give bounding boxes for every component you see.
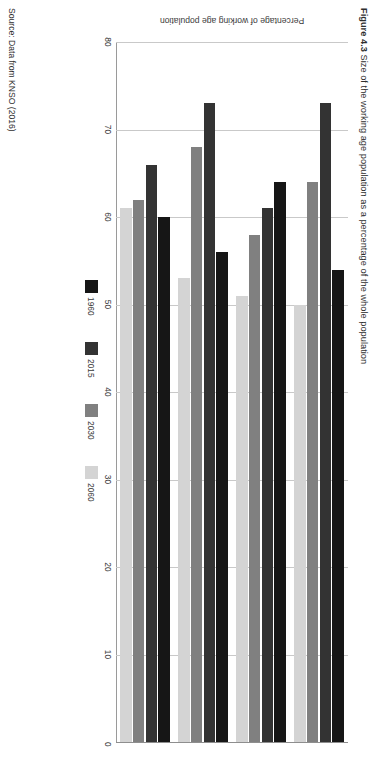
- legend-item[interactable]: 2060: [85, 466, 98, 502]
- legend-label: 2060: [87, 483, 97, 502]
- legend-label: 2030: [87, 421, 97, 440]
- legend-swatch-icon: [85, 342, 98, 355]
- category-axis-labels: KoreaJapanChinaUnited States: [116, 42, 348, 742]
- figure-caption-label: Figure 4.3: [359, 8, 369, 52]
- x-axis-title: Percentage of working age population: [116, 14, 348, 28]
- legend-swatch-icon: [85, 404, 98, 417]
- legend-swatch-icon: [85, 466, 98, 479]
- chart-legend: 1960201520302060: [78, 42, 98, 742]
- figure-caption-text: Size of the working age population as a …: [359, 55, 369, 365]
- figure-caption: Figure 4.3 Size of the working age popul…: [358, 8, 370, 708]
- legend-item[interactable]: 1960: [85, 280, 98, 316]
- x-axis-tick-labels: 80706050403020100: [101, 42, 115, 742]
- value-axis-line: [116, 742, 348, 743]
- legend-item[interactable]: 2015: [85, 342, 98, 378]
- figure-source: Source: Data from KNSO (2016): [6, 8, 17, 132]
- x-axis-tick-label: 10: [103, 611, 113, 699]
- legend-label: 2015: [87, 359, 97, 378]
- legend-swatch-icon: [85, 280, 98, 293]
- chart-plot-area: Percentage of working age population 807…: [48, 0, 348, 772]
- legend-item[interactable]: 2030: [85, 404, 98, 440]
- figure-root: Figure 4.3 Size of the working age popul…: [0, 0, 374, 772]
- legend-label: 1960: [87, 297, 97, 316]
